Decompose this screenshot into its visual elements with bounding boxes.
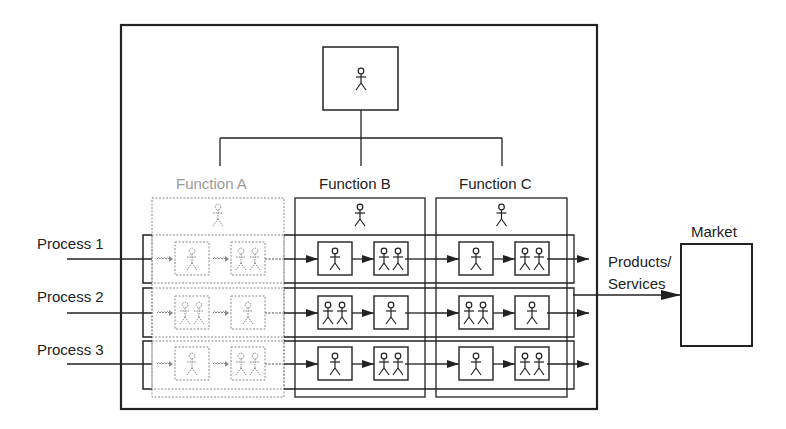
person-icon [534, 353, 544, 375]
person-icon [471, 353, 481, 375]
person-icon [180, 302, 190, 324]
squiggle-arrow-icon [213, 312, 225, 314]
person-icon [236, 248, 246, 270]
person-icon [520, 248, 530, 270]
organization-boundary [121, 25, 597, 409]
market-label: Market [691, 224, 737, 239]
task-box [231, 296, 265, 329]
person-icon [478, 302, 488, 324]
squiggle-arrow-icon [157, 312, 169, 314]
person-icon [330, 248, 340, 270]
person-icon [330, 353, 340, 375]
arrowhead-icon [225, 256, 229, 262]
squiggle-arrow-icon [157, 363, 169, 365]
person-icon [393, 353, 403, 375]
arrowhead-icon [225, 310, 229, 316]
person-icon [356, 68, 366, 90]
person-icon [337, 302, 347, 324]
function-c-label: Function C [459, 176, 532, 191]
person-icon [187, 353, 197, 375]
products-services-label-line2: Services [608, 276, 666, 291]
arrowhead-icon [169, 310, 173, 316]
process-3-label: Process 3 [37, 342, 104, 357]
process-row-bracket [143, 341, 152, 389]
function-a-label: Function A [176, 176, 247, 191]
person-icon [534, 248, 544, 270]
market-box [681, 244, 752, 346]
person-icon [236, 353, 246, 375]
person-icon [379, 353, 389, 375]
person-icon [464, 302, 474, 324]
squiggle-arrow-icon [157, 258, 169, 260]
process-3-band [284, 341, 574, 389]
function-c-column [436, 198, 567, 397]
organization-process-diagram [0, 0, 786, 429]
arrowhead-icon [169, 361, 173, 367]
squiggle-arrow-icon [213, 258, 225, 260]
squiggle-arrow-icon [213, 363, 225, 365]
person-icon [386, 302, 396, 324]
process-1-label: Process 1 [37, 236, 104, 251]
person-icon [527, 302, 537, 324]
person-icon [520, 353, 530, 375]
process-2-label: Process 2 [37, 289, 104, 304]
task-box [175, 347, 209, 380]
person-icon [250, 248, 260, 270]
person-icon [497, 204, 507, 226]
task-box [175, 242, 209, 275]
person-icon [250, 353, 260, 375]
person-icon [393, 248, 403, 270]
process-3-band-a [152, 341, 284, 389]
person-icon [213, 204, 223, 226]
person-icon [471, 248, 481, 270]
person-icon [243, 302, 253, 324]
person-icon [379, 248, 389, 270]
function-a-column [152, 198, 284, 397]
function-b-label: Function B [319, 176, 391, 191]
person-icon [187, 248, 197, 270]
person-icon [323, 302, 333, 324]
products-services-label-line1: Products/ [608, 254, 671, 269]
hierarchy-connector [220, 110, 502, 166]
person-icon [355, 204, 365, 226]
function-b-column [295, 198, 425, 397]
person-icon [356, 68, 366, 90]
arrowhead-icon [225, 361, 229, 367]
person-icon [194, 302, 204, 324]
arrowhead-icon [169, 256, 173, 262]
